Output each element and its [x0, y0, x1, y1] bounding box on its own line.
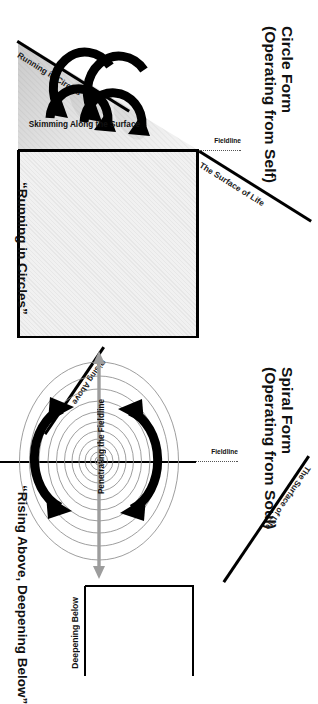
circle-box-top-rule — [197, 150, 199, 338]
panel-spiral-form: Spiral Form (Operating from Soul) The Su… — [0, 339, 318, 677]
circle-fieldline-dotted — [199, 150, 241, 151]
spiral-caption: “Rising Above, Deepening Below” — [15, 485, 30, 704]
spiral-deepening-below-label: Deepening Below — [70, 597, 80, 669]
circle-motion-label: Skimming Along the Surface — [29, 120, 140, 129]
circle-caption: “Running in Circles” — [15, 182, 30, 315]
circle-fieldline-label: Fieldline — [214, 137, 241, 144]
circle-loop-arrows — [32, 48, 172, 180]
panel-circle-form: Circle Form (Operating from Self) — [0, 0, 318, 338]
spiral-rotation-arrows — [23, 397, 168, 527]
